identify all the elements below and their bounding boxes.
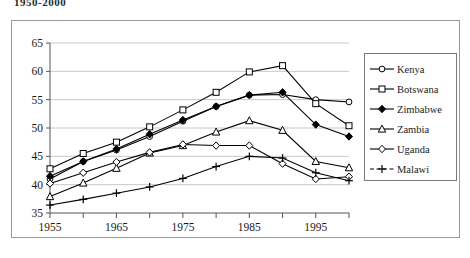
- series-line-zambia: [50, 121, 349, 197]
- page-title: 1950-2000: [14, 0, 66, 8]
- legend-label-uganda: Uganda: [395, 144, 430, 155]
- series-botswana: [47, 63, 352, 172]
- series-line-kenya: [50, 95, 349, 179]
- datapoint-zambia-1960: [80, 179, 87, 186]
- y-tick-label-55: 55: [32, 94, 44, 106]
- legend-item-zimbabwe[interactable]: Zimbabwe: [365, 99, 456, 119]
- legend-label-kenya: Kenya: [395, 64, 424, 75]
- datapoint-botswana-1975: [180, 107, 186, 113]
- datapoint-botswana-1985: [246, 69, 252, 75]
- datapoint-uganda-1960: [80, 169, 87, 176]
- series-line-botswana: [50, 66, 349, 169]
- datapoint-zimbabwe-2000: [346, 133, 353, 140]
- legend-label-malawi: Malawi: [395, 164, 429, 175]
- datapoint-botswana-1970: [147, 124, 153, 130]
- legend-item-malawi[interactable]: Malawi: [365, 159, 456, 179]
- datapoint-zimbabwe-1960: [80, 158, 87, 165]
- y-tick-label-60: 60: [32, 65, 44, 77]
- series-malawi: [46, 152, 353, 209]
- legend-symbol-kenya: [379, 66, 385, 72]
- y-tick-label-45: 45: [32, 150, 44, 162]
- datapoint-zambia-1955: [46, 193, 53, 200]
- y-tick-label-40: 40: [32, 179, 44, 191]
- datapoint-malawi-1995: [312, 169, 320, 177]
- x-tick-label-1985: 1985: [238, 221, 261, 233]
- legend-symbol-uganda: [379, 145, 386, 152]
- datapoint-malawi-1985: [245, 152, 253, 160]
- datapoint-kenya-2000: [346, 99, 352, 105]
- datapoint-botswana-1980: [213, 89, 219, 95]
- datapoint-malawi-1975: [179, 175, 187, 183]
- datapoint-uganda-1985: [246, 142, 253, 149]
- x-tick-label-1955: 1955: [39, 221, 62, 233]
- datapoint-botswana-1995: [313, 101, 319, 107]
- datapoint-uganda-1965: [113, 158, 120, 165]
- datapoint-botswana-1955: [47, 166, 53, 172]
- datapoint-uganda-1980: [213, 142, 220, 149]
- legend-symbol-zimbabwe: [379, 105, 386, 112]
- legend-marker-open-diamond-icon: [369, 142, 395, 156]
- y-tick-label-65: 65: [32, 37, 44, 49]
- series-zimbabwe: [47, 89, 353, 180]
- x-tick-label-1995: 1995: [304, 221, 327, 233]
- datapoint-malawi-1980: [212, 163, 220, 171]
- legend-marker-filled-diamond-icon: [369, 102, 395, 116]
- legend-label-zimbabwe: Zimbabwe: [395, 104, 442, 115]
- datapoint-malawi-1990: [279, 154, 287, 162]
- legend-symbol-malawi: [378, 165, 386, 173]
- y-tick-label-35: 35: [32, 207, 44, 219]
- x-tick-label-1965: 1965: [105, 221, 128, 233]
- legend-marker-plus-icon: [369, 162, 395, 176]
- legend-marker-open-square-icon: [369, 82, 395, 96]
- legend-marker-open-circle-icon: [369, 62, 395, 76]
- datapoint-botswana-1960: [80, 151, 86, 157]
- legend-label-zambia: Zambia: [395, 124, 429, 135]
- chart-legend: KenyaBotswanaZimbabweZambiaUgandaMalawi: [364, 53, 457, 181]
- datapoint-malawi-1955: [46, 201, 54, 209]
- datapoint-zimbabwe-1980: [213, 103, 220, 110]
- legend-item-zambia[interactable]: Zambia: [365, 119, 456, 139]
- series-line-malawi: [50, 156, 349, 205]
- series-line-zimbabwe: [50, 92, 349, 176]
- datapoint-zimbabwe-1985: [246, 91, 253, 98]
- legend-item-kenya[interactable]: Kenya: [365, 59, 456, 79]
- series-uganda: [47, 141, 353, 188]
- datapoint-botswana-2000: [346, 123, 352, 129]
- datapoint-malawi-1960: [79, 196, 87, 204]
- datapoint-malawi-1965: [113, 189, 121, 197]
- legend-label-botswana: Botswana: [395, 84, 438, 95]
- legend-item-botswana[interactable]: Botswana: [365, 79, 456, 99]
- y-tick-label-50: 50: [32, 122, 44, 134]
- x-tick-label-1975: 1975: [171, 221, 194, 233]
- datapoint-botswana-1965: [113, 139, 119, 145]
- chart-figure-frame: 3540455055606519551965197519851995 Kenya…: [11, 20, 460, 238]
- datapoint-botswana-1990: [280, 63, 286, 69]
- legend-item-uganda[interactable]: Uganda: [365, 139, 456, 159]
- datapoint-zambia-1985: [246, 117, 253, 124]
- legend-marker-open-triangle-icon: [369, 122, 395, 136]
- legend-symbol-botswana: [379, 86, 385, 92]
